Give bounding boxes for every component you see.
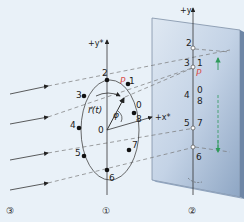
origin-label: 0 [98, 125, 104, 135]
screen-2: 2 [186, 38, 192, 48]
circle-p-label: P [120, 76, 126, 86]
screen-8: 8 [197, 96, 203, 106]
diagram: +y* +x* +y 2 P 1 3 r⃗(t) φ 0 8 4 0 7 5 6… [0, 0, 244, 222]
r-label: r⃗(t) [88, 105, 102, 115]
y-label: +y [180, 6, 192, 15]
pt-5: 5 [75, 148, 81, 158]
phi-label: φ [113, 110, 119, 120]
marker-2: ② [188, 206, 196, 216]
pt-0: 0 [136, 100, 142, 110]
diagram-canvas: +y* +x* +y 2 P 1 3 r⃗(t) φ 0 8 4 0 7 5 6… [0, 0, 244, 222]
pt-7: 7 [132, 140, 138, 150]
y-star-label: +y* [88, 39, 103, 48]
screen-1: 1 [197, 58, 203, 68]
light-rays [10, 86, 48, 190]
screen-3: 3 [184, 58, 190, 68]
pt-8: 8 [136, 114, 142, 124]
screen-7: 7 [197, 118, 203, 128]
screen-6: 6 [196, 152, 202, 162]
pt-6: 6 [109, 173, 115, 183]
orbit-circle [81, 80, 139, 180]
screen-4: 4 [184, 90, 190, 100]
screen-0: 0 [197, 85, 203, 95]
pt-2: 2 [102, 68, 108, 78]
x-star-label: +x* [155, 113, 170, 122]
pt-1: 1 [129, 76, 135, 86]
screen-p: P [196, 68, 202, 78]
marker-3: ③ [6, 206, 14, 216]
screen-panel [152, 18, 244, 199]
marker-1: ① [102, 206, 110, 216]
pt-3: 3 [76, 90, 82, 100]
screen-5: 5 [184, 118, 190, 128]
pt-4: 4 [70, 120, 76, 130]
